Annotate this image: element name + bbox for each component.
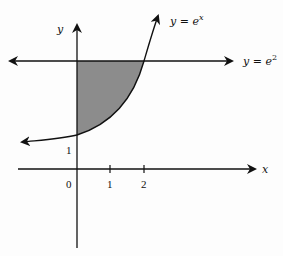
graph-figure: y x y = ex y = e2 0 1 2 1 [0,0,283,256]
tick-label-2: 2 [141,178,147,190]
line-label-e2: y = e2 [242,53,277,68]
shaded-region [77,61,144,135]
y-axis-label: y [56,23,64,36]
y-intercept-label: 1 [66,144,72,156]
curve-e-x-left [22,135,77,142]
origin-label: 0 [66,178,72,190]
graph-canvas: y x y = ex y = e2 0 1 2 1 [0,0,283,256]
x-axis-label: x [262,163,269,176]
tick-label-1: 1 [107,178,113,190]
curve-label-e-x: y = ex [169,13,204,28]
